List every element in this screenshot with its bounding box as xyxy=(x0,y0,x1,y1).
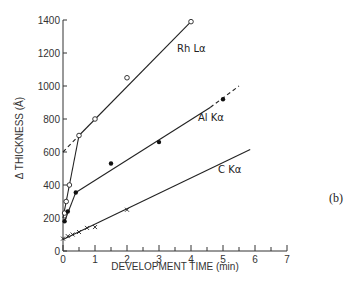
data-point xyxy=(93,225,97,229)
data-point xyxy=(85,226,89,230)
y-tick-label: 1000 xyxy=(38,81,61,92)
data-point xyxy=(62,219,66,223)
y-tick-label: 1200 xyxy=(38,48,61,59)
data-point xyxy=(189,19,194,24)
y-tick-label: 600 xyxy=(43,147,60,158)
fit-line xyxy=(63,150,250,240)
data-point xyxy=(66,209,70,213)
data-point xyxy=(64,199,69,204)
panel-label: (b) xyxy=(329,191,343,205)
axes xyxy=(63,20,287,251)
fit-line xyxy=(210,86,239,107)
series-layer xyxy=(61,19,250,240)
data-point xyxy=(109,161,113,165)
x-tick-label: 6 xyxy=(252,254,258,265)
series-al xyxy=(62,86,239,224)
y-tick-label: 1400 xyxy=(38,15,61,26)
data-point xyxy=(74,190,78,194)
y-tick-label: 800 xyxy=(43,114,60,125)
series-label-rh: Rh Lα xyxy=(177,43,206,54)
x-tick-label: 0 xyxy=(60,254,66,265)
data-point xyxy=(77,133,82,138)
thickness-chart: 0200400600800100012001400 01234567 Δ THI… xyxy=(0,0,364,287)
data-point xyxy=(125,75,130,80)
x-tick-label: 1 xyxy=(92,254,98,265)
y-axis-label: Δ THICKNESS (Å) xyxy=(13,97,25,179)
series-label-al: Al Kα xyxy=(198,112,224,123)
fit-line xyxy=(65,192,76,221)
data-point xyxy=(157,140,161,144)
series-label-c: C Kα xyxy=(218,164,242,175)
y-tick-label: 200 xyxy=(43,213,60,224)
y-tick-label: 400 xyxy=(43,180,60,191)
data-point xyxy=(93,117,98,122)
data-point xyxy=(67,183,72,188)
x-axis-label: DEVELOPMENT TIME (min) xyxy=(111,261,238,272)
data-point xyxy=(221,97,225,101)
x-tick-label: 7 xyxy=(284,254,290,265)
